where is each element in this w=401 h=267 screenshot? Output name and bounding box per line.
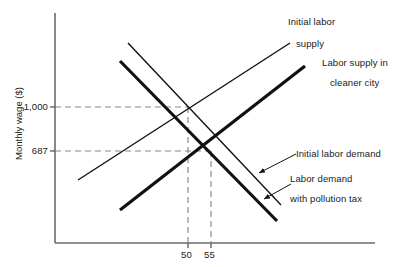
leader-initial-labor-demand bbox=[259, 154, 296, 173]
annotation-cleaner-city-supply-line2: cleaner city bbox=[330, 77, 379, 88]
y-tick-label-687: 687 bbox=[4, 145, 48, 156]
x-tick-label-55: 55 bbox=[204, 249, 215, 260]
chart-plot-area bbox=[0, 0, 401, 267]
y-tick-label-1000: 1,000 bbox=[4, 101, 48, 112]
chart-figure: Monthly wage ($) 1,000 687 50 55 Initial… bbox=[0, 0, 401, 267]
annotation-labor-demand-tax-line1: Labor demand bbox=[290, 173, 352, 184]
annotation-initial-labor-demand: Initial labor demand bbox=[296, 148, 381, 159]
annotation-initial-labor-supply-line1: Initial labor bbox=[288, 16, 335, 27]
curve-initial-labor-demand bbox=[128, 43, 281, 205]
annotation-initial-labor-supply-line2: supply bbox=[296, 38, 324, 49]
annotation-cleaner-city-supply-line1: Labor supply in bbox=[322, 57, 388, 68]
annotation-labor-demand-tax-line2: with pollution tax bbox=[290, 193, 362, 204]
curve-labor-demand-with-pollution-tax bbox=[120, 61, 277, 221]
x-tick-label-50: 50 bbox=[181, 249, 192, 260]
y-axis-title: Monthly wage ($) bbox=[13, 74, 24, 174]
